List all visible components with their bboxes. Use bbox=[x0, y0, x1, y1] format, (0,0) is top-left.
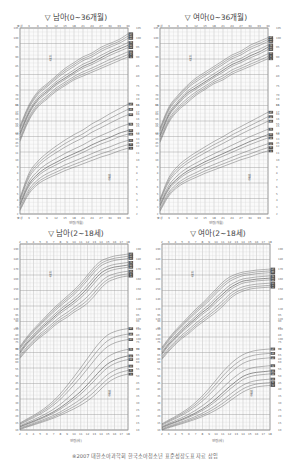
svg-text:5: 5 bbox=[157, 193, 159, 196]
svg-text:17: 17 bbox=[136, 111, 140, 114]
svg-text:10: 10 bbox=[136, 159, 140, 162]
svg-text:60: 60 bbox=[157, 361, 161, 364]
svg-text:180: 180 bbox=[156, 258, 161, 261]
svg-text:21: 21 bbox=[81, 24, 85, 28]
svg-text:21: 21 bbox=[81, 216, 85, 220]
svg-text:75: 75 bbox=[155, 85, 159, 88]
svg-text:출생: 출생 bbox=[157, 216, 163, 220]
svg-text:170: 170 bbox=[14, 268, 19, 271]
svg-text:75: 75 bbox=[136, 85, 140, 88]
svg-text:160: 160 bbox=[136, 278, 141, 281]
svg-text:33: 33 bbox=[257, 216, 261, 220]
svg-text:신장: 신장 bbox=[48, 54, 52, 62]
svg-text:100: 100 bbox=[14, 37, 19, 40]
svg-text:50: 50 bbox=[15, 375, 19, 378]
svg-text:7: 7 bbox=[276, 179, 278, 182]
svg-text:7: 7 bbox=[195, 432, 197, 436]
svg-text:30: 30 bbox=[248, 24, 252, 28]
svg-text:75: 75 bbox=[157, 341, 161, 344]
svg-text:15: 15 bbox=[136, 125, 140, 128]
svg-text:105: 105 bbox=[276, 27, 281, 30]
svg-text:95: 95 bbox=[155, 46, 159, 49]
svg-text:18: 18 bbox=[126, 432, 130, 436]
svg-text:24: 24 bbox=[230, 24, 234, 28]
svg-text:9: 9 bbox=[208, 240, 210, 244]
svg-text:50: 50 bbox=[136, 375, 140, 378]
svg-text:90: 90 bbox=[15, 320, 19, 323]
svg-text:75: 75 bbox=[276, 85, 280, 88]
svg-text:70: 70 bbox=[15, 348, 19, 351]
svg-text:15: 15 bbox=[63, 216, 67, 220]
svg-text:12: 12 bbox=[136, 145, 140, 148]
svg-text:15: 15 bbox=[15, 125, 19, 128]
svg-text:3: 3 bbox=[26, 432, 28, 436]
svg-text:80: 80 bbox=[276, 75, 280, 78]
svg-text:3: 3 bbox=[17, 206, 19, 209]
svg-text:10: 10 bbox=[278, 429, 282, 432]
svg-text:11: 11 bbox=[136, 152, 140, 155]
svg-text:7: 7 bbox=[136, 179, 138, 182]
svg-text:80: 80 bbox=[136, 334, 140, 337]
svg-text:6: 6 bbox=[46, 432, 48, 436]
svg-text:160: 160 bbox=[278, 278, 283, 281]
svg-text:85: 85 bbox=[155, 65, 159, 68]
svg-text:9: 9 bbox=[66, 432, 68, 436]
svg-text:20: 20 bbox=[136, 415, 140, 418]
svg-text:170: 170 bbox=[156, 268, 161, 271]
svg-text:33: 33 bbox=[257, 24, 261, 28]
svg-text:6: 6 bbox=[37, 24, 39, 28]
svg-text:10: 10 bbox=[136, 429, 140, 432]
svg-text:4: 4 bbox=[33, 240, 35, 244]
svg-text:15: 15 bbox=[278, 422, 282, 425]
svg-text:30: 30 bbox=[136, 402, 140, 405]
svg-text:3: 3 bbox=[136, 206, 138, 209]
svg-text:5: 5 bbox=[136, 193, 138, 196]
svg-text:7: 7 bbox=[17, 179, 19, 182]
chart-title: ▽ 남아(0~36개월) bbox=[6, 11, 146, 22]
svg-text:16: 16 bbox=[255, 240, 259, 244]
svg-text:13: 13 bbox=[92, 240, 96, 244]
svg-text:14: 14 bbox=[136, 132, 140, 135]
svg-text:45: 45 bbox=[278, 382, 282, 385]
svg-text:85: 85 bbox=[15, 327, 19, 330]
svg-text:11: 11 bbox=[276, 152, 280, 155]
svg-text:18: 18 bbox=[136, 104, 140, 107]
svg-text:75: 75 bbox=[15, 85, 19, 88]
svg-text:10: 10 bbox=[157, 429, 161, 432]
svg-text:체중: 체중 bbox=[107, 173, 111, 181]
svg-text:150: 150 bbox=[14, 288, 19, 291]
chart-girls-2-18y: ▽ 여아(2~18세) 2233445566778899101011111212… bbox=[148, 226, 288, 450]
svg-text:180: 180 bbox=[14, 258, 19, 261]
svg-text:90: 90 bbox=[155, 56, 159, 59]
svg-text:14: 14 bbox=[241, 432, 245, 436]
svg-text:15: 15 bbox=[155, 125, 159, 128]
svg-text:16: 16 bbox=[136, 118, 140, 121]
svg-text:95: 95 bbox=[15, 46, 19, 49]
growth-chart-plot: 2233445566778899101011111212131314141515… bbox=[148, 238, 288, 438]
chart-title: ▽ 남아(2~18세) bbox=[6, 227, 146, 238]
svg-text:3: 3 bbox=[28, 24, 30, 28]
svg-text:50: 50 bbox=[157, 375, 161, 378]
svg-text:130: 130 bbox=[278, 308, 283, 311]
source-footnote: ※2007 대한소아과학회 한국소아청소년 표준성장도표 자료 삽입 bbox=[0, 452, 290, 459]
svg-text:12: 12 bbox=[155, 145, 159, 148]
svg-text:18: 18 bbox=[15, 104, 19, 107]
svg-text:16: 16 bbox=[113, 432, 117, 436]
svg-text:6: 6 bbox=[46, 240, 48, 244]
svg-text:36: 36 bbox=[126, 24, 130, 28]
svg-text:80: 80 bbox=[278, 334, 282, 337]
svg-text:170: 170 bbox=[136, 268, 141, 271]
svg-text:2: 2 bbox=[19, 432, 21, 436]
svg-text:3: 3 bbox=[168, 216, 170, 220]
svg-text:65: 65 bbox=[15, 354, 19, 357]
svg-text:15: 15 bbox=[248, 240, 252, 244]
svg-text:40: 40 bbox=[157, 388, 161, 391]
svg-text:33: 33 bbox=[117, 24, 121, 28]
svg-text:12: 12 bbox=[228, 240, 232, 244]
svg-text:65: 65 bbox=[157, 354, 161, 357]
svg-text:105: 105 bbox=[14, 27, 19, 30]
svg-text:2: 2 bbox=[136, 213, 138, 216]
svg-text:16: 16 bbox=[255, 432, 259, 436]
svg-text:25: 25 bbox=[278, 409, 282, 412]
svg-text:20: 20 bbox=[157, 415, 161, 418]
